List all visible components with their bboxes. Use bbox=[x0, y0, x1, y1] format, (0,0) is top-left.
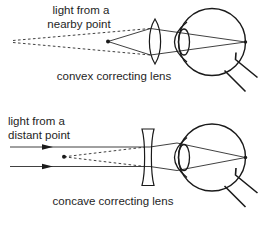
bottom-label-line1: light from a bbox=[8, 115, 65, 127]
top-panel: light from a nearby point convex correct… bbox=[13, 4, 258, 92]
parallel-ray-lower bbox=[10, 158, 246, 171]
top-label-line1: light from a bbox=[53, 4, 110, 16]
optics-figure: light from a nearby point convex correct… bbox=[0, 0, 273, 228]
virtual-point-dot bbox=[62, 155, 66, 159]
bottom-caption: concave correcting lens bbox=[53, 195, 174, 207]
virtual-extension-upper-dashed bbox=[64, 147, 144, 157]
concave-lens bbox=[142, 129, 154, 186]
top-caption: convex correcting lens bbox=[57, 70, 172, 82]
convex-lens bbox=[149, 19, 160, 64]
vision-correction-diagram: light from a nearby point convex correct… bbox=[0, 0, 273, 228]
virtual-extension-lower-dashed bbox=[64, 157, 144, 167]
eye-bottom bbox=[175, 124, 258, 207]
nearby-point-dot bbox=[106, 40, 110, 44]
bottom-label-line2: distant point bbox=[8, 129, 71, 141]
ray-arrowhead-upper bbox=[42, 144, 53, 149]
bottom-panel: light from a distant point concave corre… bbox=[8, 115, 258, 208]
top-label-line2: nearby point bbox=[47, 18, 111, 30]
ray-arrowhead-lower bbox=[42, 164, 53, 169]
